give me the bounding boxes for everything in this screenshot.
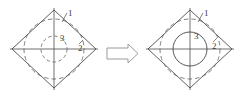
right-diagram: 1 3 2 — [146, 8, 234, 90]
left-label-2: 2 — [78, 43, 83, 53]
arrow-right-icon — [107, 44, 138, 63]
figure-container: 1 3 2 1 3 2 — [0, 0, 240, 100]
figure-caption — [0, 91, 240, 100]
left-diagram: 1 3 2 — [10, 8, 98, 90]
right-label-3: 3 — [194, 31, 199, 41]
right-label-2: 2 — [212, 41, 217, 51]
transformation-arrow — [107, 44, 138, 63]
transformation-figure: 1 3 2 1 3 2 — [0, 0, 240, 100]
left-label-1: 1 — [68, 8, 73, 18]
right-label-1: 1 — [204, 8, 209, 18]
left-label-3: 3 — [60, 33, 65, 43]
